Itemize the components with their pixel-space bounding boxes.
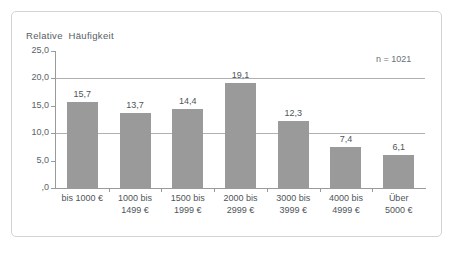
y-axis-tick-label: 15,0 [31,100,49,110]
bar [330,147,361,188]
y-axis-tick-mark [51,188,56,189]
y-axis-tick-mark [51,51,56,52]
x-axis-category-label: Über5000 € [369,193,429,216]
x-axis-tick-mark [109,188,110,192]
y-axis-tick-label: 10,0 [31,127,49,137]
y-axis-tick-labels: 25,020,015,010,05,0,0 [0,0,49,257]
chart-figure: Relative Häufigkeit n = 1021 25,020,015,… [0,0,460,257]
bar-value-label: 19,1 [221,70,261,80]
x-axis-line [55,188,426,189]
y-axis-tick-label: 25,0 [31,45,49,55]
bar-value-label: 7,4 [326,134,366,144]
x-axis-category-label: 3000 bis3999 € [263,193,323,216]
bar [120,113,151,188]
y-axis-tick-mark [51,161,56,162]
bar [172,109,203,188]
x-axis-tick-mark [372,188,373,192]
y-axis-tick-mark [51,106,56,107]
bar-value-label: 13,7 [115,100,155,110]
x-axis-category-label: 2000 bis2999 € [211,193,271,216]
x-axis-category-label: 4000 bis4999 € [316,193,376,216]
y-axis-tick-mark [51,133,56,134]
x-axis-category-label: 1500 bis1999 € [158,193,218,216]
bar [225,83,256,188]
x-axis-tick-mark [267,188,268,192]
x-axis-tick-mark [320,188,321,192]
y-axis-tick-label: ,0 [41,182,49,192]
x-axis-category-label: 1000 bis1499 € [105,193,165,216]
x-axis-tick-mark [161,188,162,192]
y-axis-tick-label: 20,0 [31,72,49,82]
bar [383,155,414,188]
bar [278,121,309,188]
bar-value-label: 12,3 [273,108,313,118]
bar [67,102,98,188]
y-axis-tick-mark [51,78,56,79]
bar-value-label: 6,1 [379,142,419,152]
bar-value-label: 14,4 [168,96,208,106]
y-axis-tick-label: 5,0 [36,155,49,165]
x-axis-tick-mark [214,188,215,192]
bar-value-label: 15,7 [62,89,102,99]
x-axis-category-label: bis 1000 € [52,193,112,205]
